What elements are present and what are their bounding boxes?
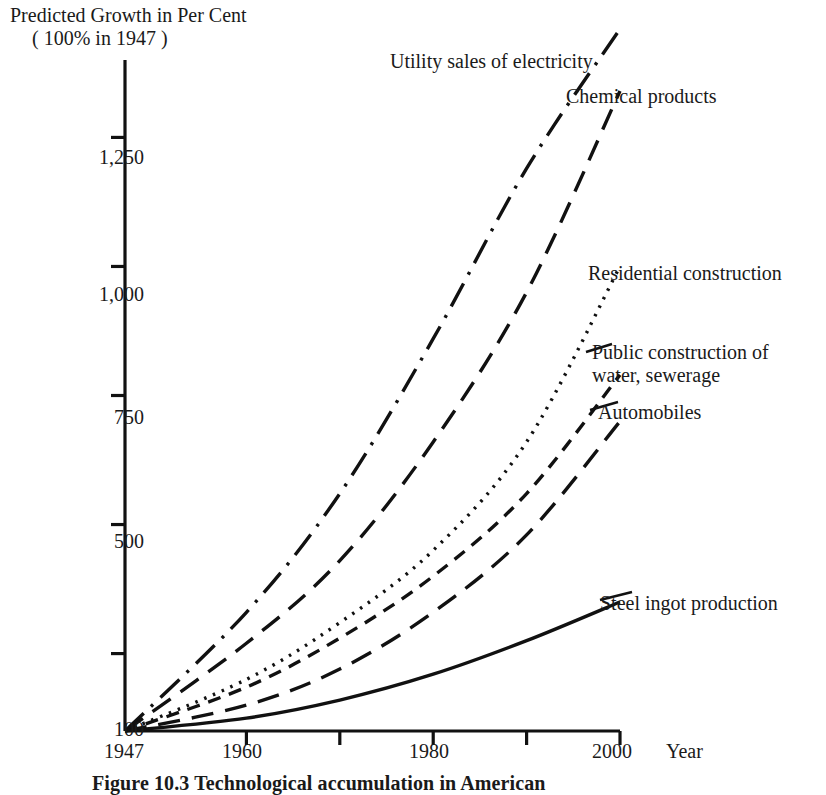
axes-group xyxy=(125,60,620,731)
y-tick-label-1250: 1,250 xyxy=(52,146,144,169)
public-construction-line2: water, sewerage xyxy=(592,364,769,387)
public-construction-line1: Public construction of xyxy=(592,341,769,363)
series-label-automobiles: Automobiles xyxy=(598,401,701,424)
series-label-utility-sales-of-electricity: Utility sales of electricity xyxy=(390,50,593,73)
y-tick-label-1000: 1,000 xyxy=(52,283,144,306)
x-tick-label-1947: 1947 xyxy=(104,740,144,763)
series-curve-chemical-products xyxy=(125,91,620,731)
y-tick-label-750: 750 xyxy=(52,406,144,429)
series-label-residential-construction: Residential construction xyxy=(588,262,782,285)
y-tick-label-500: 500 xyxy=(52,530,144,553)
figure-caption: Figure 10.3 Technological accumulation i… xyxy=(92,772,546,795)
series-curve-public-construction-of-water-sewerage xyxy=(125,375,620,731)
series-curve-automobiles xyxy=(125,421,620,731)
series-curves xyxy=(125,29,620,731)
x-tick-label-2000: 2000 xyxy=(592,740,632,763)
series-curve-steel-ingot-production xyxy=(125,602,620,731)
series-label-steel-ingot-production: Steel ingot production xyxy=(600,592,778,615)
y-tick-label-100: 100 xyxy=(52,718,144,741)
series-label-public-construction-water-sewerage: Public construction of water, sewerage xyxy=(592,341,769,387)
series-curve-utility-sales-of-electricity xyxy=(125,29,620,731)
x-tick-label-1980: 1980 xyxy=(409,740,449,763)
series-label-chemical-products: Chemical products xyxy=(566,85,717,108)
x-axis-name: Year xyxy=(666,740,703,763)
y-axis-ticks xyxy=(111,137,125,653)
x-tick-label-1960: 1960 xyxy=(222,740,262,763)
